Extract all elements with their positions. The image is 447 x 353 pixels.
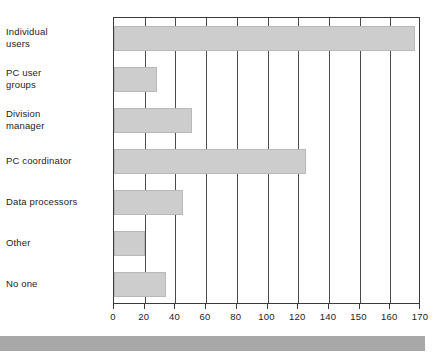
axis-tick-label: 40	[169, 311, 180, 323]
axis-tick	[174, 304, 175, 309]
axis-tick	[113, 304, 114, 309]
plot-area	[113, 17, 420, 304]
category-label: Other	[6, 237, 100, 249]
scan-artifact-band	[0, 336, 425, 351]
axis-tick	[144, 304, 145, 309]
value-axis: 020406080100120140150160170	[113, 304, 420, 330]
bar	[114, 272, 166, 297]
axis-tick	[359, 304, 360, 309]
category-label: Data processors	[6, 196, 100, 208]
category-label: Division manager	[6, 108, 100, 131]
bar	[114, 108, 192, 133]
axis-tick-label: 60	[200, 311, 211, 323]
category-label: No one	[6, 278, 100, 290]
bar	[114, 67, 157, 92]
axis-tick	[389, 304, 390, 309]
bar	[114, 231, 145, 256]
axis-tick	[297, 304, 298, 309]
axis-tick	[205, 304, 206, 309]
axis-tick	[328, 304, 329, 309]
axis-tick-label: 20	[138, 311, 149, 323]
bar-chart-figure: Individual usersPC user groupsDivision m…	[0, 0, 447, 353]
axis-tick-label: 140	[320, 311, 336, 323]
bar	[114, 149, 306, 174]
axis-tick	[236, 304, 237, 309]
bar	[114, 26, 415, 51]
category-label: Individual users	[6, 26, 100, 49]
axis-tick-label: 120	[289, 311, 305, 323]
axis-tick-label: 170	[412, 311, 428, 323]
category-label: PC coordinator	[6, 155, 100, 167]
category-label: PC user groups	[6, 67, 100, 90]
axis-tick-label: 150	[350, 311, 366, 323]
axis-tick	[267, 304, 268, 309]
axis-tick-label: 80	[230, 311, 241, 323]
axis-tick	[419, 304, 420, 309]
bar	[114, 190, 183, 215]
bar-series	[114, 18, 419, 303]
category-axis-labels: Individual usersPC user groupsDivision m…	[0, 17, 108, 304]
axis-tick-label: 0	[110, 311, 115, 323]
axis-tick-label: 100	[258, 311, 274, 323]
axis-tick-label: 160	[381, 311, 397, 323]
